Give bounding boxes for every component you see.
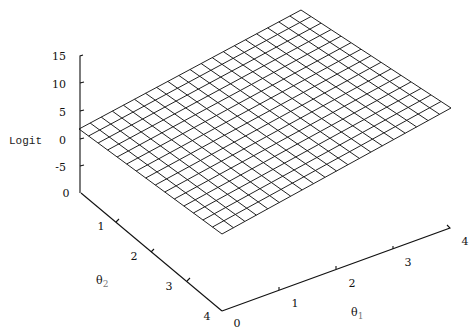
plot-canvas: 15 10 5 0 -5 Logit 0 1 2 3 4 θ2 0 1 2 3 …	[0, 0, 474, 332]
surface-plot: 15 10 5 0 -5 Logit 0 1 2 3 4 θ2 0 1 2 3 …	[0, 0, 474, 332]
z-axis-ticks	[80, 82, 84, 166]
theta2-axis-ticks	[116, 219, 190, 281]
theta1-tick-label: 2	[349, 277, 356, 290]
theta1-tick-label: 1	[292, 297, 299, 310]
z-tick-label: -5	[55, 161, 66, 174]
theta1-axis-label: θ1	[351, 306, 363, 321]
surface-mesh	[79, 10, 451, 234]
theta1-tick-label: 3	[405, 256, 412, 269]
theta2-tick-label: 1	[98, 220, 105, 233]
z-tick-label: 0	[59, 134, 66, 147]
theta2-tick-label: 3	[166, 280, 173, 293]
mesh-lines	[79, 10, 451, 234]
z-axis-label: Logit	[9, 135, 42, 147]
z-tick-label: 5	[59, 106, 66, 119]
z-tick-label: 10	[52, 78, 66, 91]
z-tick-label: 15	[52, 50, 66, 63]
theta2-tick-label: 2	[131, 250, 138, 263]
theta1-axis-ticks	[279, 246, 393, 290]
theta1-tick-label: 0	[234, 317, 241, 330]
theta2-axis-label: θ2	[96, 274, 108, 289]
theta2-tick-label: 4	[204, 310, 211, 323]
theta1-tick-label: 4	[462, 235, 469, 248]
z-axis	[80, 55, 83, 193]
theta2-tick-label: 0	[63, 187, 70, 200]
